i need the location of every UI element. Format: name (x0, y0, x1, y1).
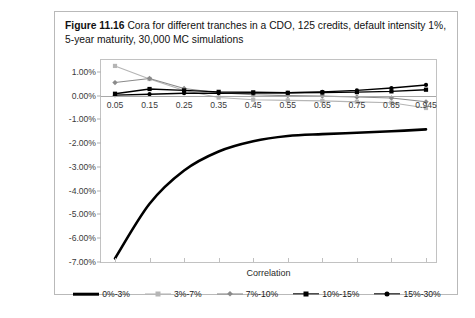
legend-item[interactable]: 0%-3% (73, 289, 130, 299)
y-axis-tick-label: -3.00% (69, 162, 96, 172)
legend-item[interactable]: 15%-30% (374, 289, 440, 299)
series-line (115, 129, 426, 258)
x-axis-tick-mark (115, 258, 116, 262)
x-axis-title: Correlation (100, 268, 437, 278)
legend-item[interactable]: 3%-7% (145, 289, 202, 299)
x-axis-tick-mark (150, 258, 151, 262)
data-point-marker (389, 86, 393, 90)
x-axis-tick-mark (357, 258, 358, 262)
data-point-marker (147, 87, 151, 91)
y-axis-tick-mark (97, 190, 101, 191)
plot-inner: 1.00%0.00%-1.00%-2.00%-3.00%-4.00%-5.00%… (101, 60, 436, 262)
x-axis-tick-mark (322, 258, 323, 262)
legend-marker-diamond (227, 291, 233, 297)
y-axis-tick-mark (97, 214, 101, 215)
x-axis-tick-mark (391, 258, 392, 262)
legend-label: 15%-30% (403, 289, 440, 299)
x-axis-tick-label: 0.25 (176, 100, 193, 110)
legend-item[interactable]: 10%-15% (293, 289, 359, 299)
figure-caption: Figure 11.16 Cora for different tranches… (65, 19, 449, 47)
legend-swatch (217, 289, 243, 299)
y-axis-tick-label: 1.00% (72, 67, 96, 77)
zero-baseline (101, 96, 436, 97)
figure-label: Figure 11.16 (65, 20, 125, 31)
data-point-marker (424, 88, 428, 92)
legend-swatch (145, 289, 171, 299)
legend-item[interactable]: 7%-10% (217, 289, 278, 299)
y-axis-tick-label: -7.00% (69, 257, 96, 267)
x-axis-tick-label: 0.15 (141, 100, 158, 110)
data-point-marker (286, 91, 290, 95)
y-axis-tick-mark (97, 119, 101, 120)
x-axis-tick-label: 0.05 (107, 100, 124, 110)
plot-area: 1.00%0.00%-1.00%-2.00%-3.00%-4.00%-5.00%… (100, 59, 437, 263)
figure-card: Figure 11.16 Cora for different tranches… (54, 11, 458, 295)
data-point-marker (320, 90, 324, 94)
x-axis-tick-label: 0.85 (383, 100, 400, 110)
series-line (115, 66, 426, 108)
legend-swatch (73, 289, 99, 299)
y-axis-tick-label: -5.00% (69, 209, 96, 219)
legend-label: 3%-7% (174, 289, 202, 299)
legend-label: 0%-3% (102, 289, 130, 299)
data-point-marker (424, 83, 428, 87)
x-axis-tick-mark (288, 258, 289, 262)
series-layer (101, 60, 436, 262)
legend-marker-square (155, 292, 160, 297)
y-axis-tick-mark (97, 262, 101, 263)
legend-swatch (293, 289, 319, 299)
x-axis-tick-label: 0.945 (415, 100, 437, 110)
y-axis-tick-label: -4.00% (69, 186, 96, 196)
legend-swatch (374, 289, 400, 299)
data-point-marker (112, 80, 117, 85)
x-axis-tick-mark (219, 258, 220, 262)
x-axis-tick-label: 0.45 (245, 100, 262, 110)
chart-legend: 0%-3%3%-7%7%-10%10%-15%15%-30% (67, 286, 447, 302)
x-axis-tick-label: 0.55 (279, 100, 296, 110)
x-axis-tick-label: 0.65 (314, 100, 331, 110)
legend-line (73, 293, 99, 296)
y-axis-tick-label: 0.00% (72, 91, 96, 101)
y-axis-tick-mark (97, 143, 101, 144)
legend-marker-circle (385, 292, 390, 297)
x-axis-tick-label: 0.35 (210, 100, 227, 110)
legend-marker-square (304, 292, 309, 297)
data-point-marker (251, 91, 255, 95)
x-axis-tick-mark (184, 258, 185, 262)
y-axis-tick-label: -2.00% (69, 138, 96, 148)
data-point-marker (113, 64, 117, 68)
y-axis-tick-mark (97, 238, 101, 239)
x-axis-tick-label: 0.75 (349, 100, 366, 110)
data-point-marker (355, 88, 359, 92)
x-axis-tick-mark (426, 258, 427, 262)
series-0-3 (115, 129, 426, 258)
y-axis-tick-mark (97, 166, 101, 167)
y-axis-tick-mark (97, 71, 101, 72)
y-axis-tick-label: -1.00% (69, 114, 96, 124)
legend-label: 7%-10% (246, 289, 278, 299)
y-axis-tick-label: -6.00% (69, 233, 96, 243)
x-axis-tick-mark (253, 258, 254, 262)
legend-label: 10%-15% (322, 289, 359, 299)
series-3-7 (113, 64, 428, 110)
